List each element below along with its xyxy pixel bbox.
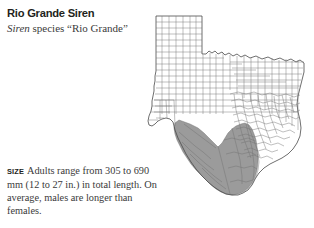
- county-lines-east: [230, 55, 304, 130]
- scientific-epithet: species “Rio Grande”: [30, 22, 128, 34]
- species-account-page: Rio Grande Siren Siren species “Rio Gran…: [0, 0, 314, 228]
- range-shade-group: [174, 120, 258, 195]
- range-shade-area: [174, 120, 258, 195]
- size-label: SIZE: [7, 167, 24, 176]
- scientific-genus: Siren: [7, 22, 30, 34]
- scientific-name: Siren species “Rio Grande”: [7, 22, 157, 35]
- text-column: Rio Grande Siren Siren species “Rio Gran…: [7, 7, 157, 35]
- range-map: [146, 2, 314, 228]
- size-description-block: SIZEAdults range from 305 to 690 mm (12 …: [7, 164, 159, 217]
- size-text: Adults range from 305 to 690 mm (12 to 2…: [7, 165, 157, 216]
- county-lines-panhandle: [156, 16, 202, 54]
- page-title: Rio Grande Siren: [7, 7, 157, 19]
